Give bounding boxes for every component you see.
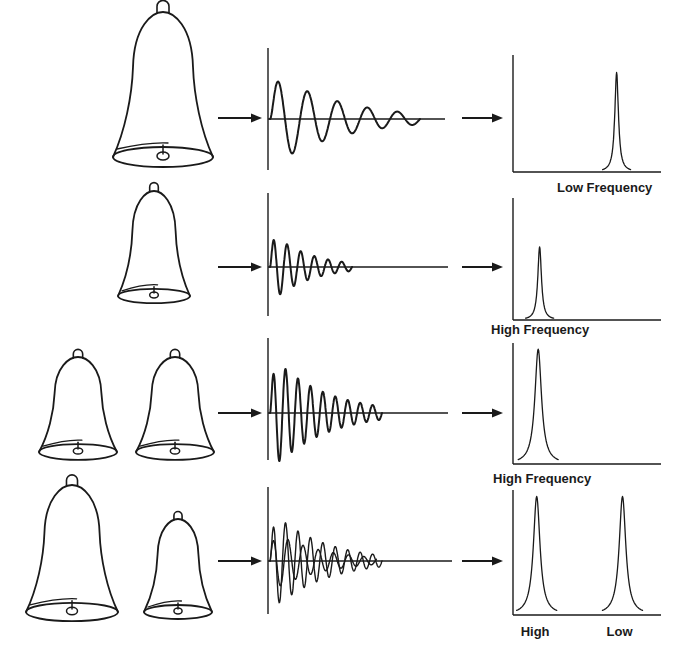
spectrum-plot [513,55,661,172]
bell-group [26,475,212,621]
bell-small [144,512,212,619]
row-small-bell: High Frequency [118,183,661,337]
arrow-head [251,263,262,272]
bell-group [113,0,213,167]
row-two-small-bells: High Frequency [39,338,661,486]
arrow-head [492,409,503,418]
bell-body [113,12,213,157]
spectrum-plot [513,490,661,615]
bell-body [144,519,212,612]
spectrum-label-high-frequency: High Frequency [493,471,592,486]
bell-body [26,485,118,612]
arrow-to-spectrum [462,263,503,272]
waveform-trace [270,82,420,154]
spectrum-peak-1 [603,496,643,610]
bell-group [118,183,190,304]
arrow-to-spectrum [462,557,503,566]
arrow-to-spectrum [462,409,503,418]
arrow-to-waveform [218,114,262,123]
spectrum-peak-0 [526,247,554,318]
arrow-to-waveform [218,409,262,418]
arrow-head [251,409,262,418]
bell-group [39,349,214,459]
spectrum-plot [513,343,661,464]
bell-body [136,357,214,452]
waveform-plot [268,48,445,170]
waveform-trace-low [270,540,376,586]
arrow-head [251,557,262,566]
bell-small [39,349,117,459]
row-large-and-small-bell: High Low [26,475,661,639]
spectrum-peak-0 [517,496,557,610]
bell-large [26,475,118,621]
waveform-plot [268,193,448,316]
spectrum-label-high-frequency: High Frequency [491,322,590,337]
bell-small [118,183,190,304]
spectrum-peak-0 [603,73,631,170]
waveform-plot [268,338,448,461]
arrow-to-waveform [218,263,262,272]
spectrum-label-low: Low [607,624,634,639]
arrow-head [492,114,503,123]
arrow-head [251,114,262,123]
waveform-trace [270,369,382,461]
spectrum-label-high: High [521,624,550,639]
arrow-to-spectrum [462,114,503,123]
row-large-bell: Low Frequency [113,0,661,195]
bell-large [113,0,213,167]
bell-body [39,357,117,452]
arrow-head [492,557,503,566]
spectrum-label-low-frequency: Low Frequency [557,180,653,195]
spectrum-plot [513,198,661,320]
bell-body [118,191,190,296]
waveform-trace-high [270,523,382,603]
spectrum-peak-0 [518,349,558,460]
arrow-to-waveform [218,557,262,566]
bell-frequency-diagram: Low Frequency High Frequency High Freque… [0,0,691,657]
waveform-plot [268,487,452,614]
bell-small [136,349,214,459]
arrow-head [492,263,503,272]
